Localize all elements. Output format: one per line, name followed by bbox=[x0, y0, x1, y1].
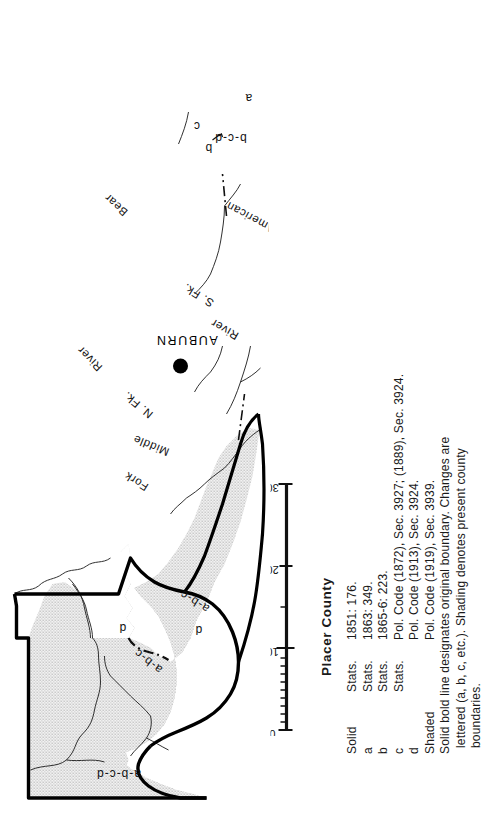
auburn-city-dot bbox=[173, 359, 188, 374]
scale-tick-30: 30 bbox=[270, 482, 278, 494]
boundary-label-b-south: b bbox=[204, 141, 212, 155]
river-label-american: American bbox=[224, 200, 268, 236]
boundary-label-c-south: c bbox=[193, 119, 200, 133]
legend-row: c Stats. Pol. Code (1872), Sec. 3927; (1… bbox=[391, 54, 407, 754]
legend-citation: Pol. Code (1913), Sec. 3924. bbox=[406, 54, 422, 640]
boundary-label-bcd: b-c-d bbox=[214, 131, 246, 145]
boundary-label-d-lower: d bbox=[194, 623, 202, 637]
legend-note-line-3: boundaries. bbox=[468, 54, 484, 748]
legend-citation: 1851: 176. bbox=[344, 54, 360, 640]
river-label-fork: Fork bbox=[122, 470, 150, 494]
legend-source: Stats. bbox=[391, 640, 407, 692]
river-label-middle: Middle bbox=[131, 433, 170, 458]
legend-citation: 1863: 349. bbox=[360, 54, 376, 640]
legend-source: Stats. bbox=[375, 640, 391, 692]
legend-key: c bbox=[391, 692, 407, 754]
legend-source: Stats. bbox=[344, 640, 360, 692]
legend-key: b bbox=[375, 692, 391, 754]
legend-citation: Pol. Code (1919), Sec. 3939. bbox=[422, 54, 438, 640]
river-label-river-north: River bbox=[74, 344, 104, 374]
legend-note-line-1: Solid bold line designates original boun… bbox=[437, 54, 453, 754]
legend-key: a bbox=[360, 692, 376, 754]
scale-tick-10: 10 bbox=[270, 646, 278, 658]
boundary-label-a-south: a bbox=[244, 91, 252, 105]
scale-bar-svg: 0 10 20 30 bbox=[270, 476, 296, 736]
boundary-label-abcd: a-b-c-d bbox=[95, 767, 140, 781]
legend-citation: 1865-6: 223. bbox=[375, 54, 391, 640]
legend-note-line-2: lettered (a, b, c, etc.). Shading denote… bbox=[453, 54, 469, 748]
legend-row: b Stats. 1865-6: 223. bbox=[375, 54, 391, 754]
legend-citation: Pol. Code (1872), Sec. 3927; (1889), Sec… bbox=[391, 54, 407, 640]
legend-row: Solid Stats. 1851: 176. bbox=[344, 54, 360, 754]
legend-key: d bbox=[406, 692, 422, 754]
legend-note: Solid bold line designates original boun… bbox=[437, 54, 484, 754]
legend-row: a Stats. 1863: 349. bbox=[360, 54, 376, 754]
river-label-s-fk: S. Fk. bbox=[180, 281, 215, 309]
legend-source: Stats. bbox=[360, 640, 376, 692]
county-map-svg: a-b-c-d a-b-c a-b-c d d b-c-d a b c AUBU… bbox=[0, 0, 268, 834]
legend-key: Solid bbox=[344, 692, 360, 754]
scale-tick-20: 20 bbox=[270, 564, 278, 576]
boundary-label-d-upper: d bbox=[118, 621, 126, 635]
legend-key: Shaded bbox=[422, 692, 438, 754]
river-label-n-fk: N. Fk. bbox=[120, 389, 154, 420]
map-plate-page: a-b-c-d a-b-c a-b-c d d b-c-d a b c AUBU… bbox=[0, 0, 503, 834]
scale-tick-0: 0 bbox=[270, 728, 275, 736]
river-label-bear: Bear bbox=[101, 192, 129, 219]
rotated-plate: a-b-c-d a-b-c a-b-c d d b-c-d a b c AUBU… bbox=[0, 0, 503, 834]
legend-title: Placer County bbox=[318, 54, 333, 676]
scale-bar: 0 10 20 30 bbox=[270, 476, 310, 736]
auburn-city-label: AUBURN bbox=[155, 333, 217, 347]
legend-row: d Pol. Code (1913), Sec. 3924. bbox=[406, 54, 422, 754]
county-map: a-b-c-d a-b-c a-b-c d d b-c-d a b c AUBU… bbox=[0, 0, 265, 834]
legend: Placer County Solid Stats. 1851: 176. a … bbox=[318, 54, 484, 754]
legend-row: Shaded Pol. Code (1919), Sec. 3939. bbox=[422, 54, 438, 754]
